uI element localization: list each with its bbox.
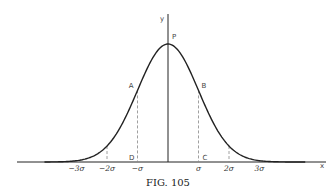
tick-label: −3σ — [68, 164, 85, 173]
point-label-c: C — [203, 154, 208, 162]
normal-curve-figure: −3σ−2σ−σσ2σ3σ PABDC x y — [0, 0, 336, 196]
x-axis-label: x — [320, 162, 324, 170]
tick-label: −σ — [132, 164, 144, 173]
point-label-b: B — [202, 82, 207, 90]
tick-label: 2σ — [223, 164, 235, 173]
point-label-p: P — [172, 33, 176, 41]
tick-label: σ — [196, 164, 202, 173]
normal-curve — [44, 44, 305, 162]
point-label-d: D — [129, 154, 134, 162]
tick-label: −2σ — [99, 164, 116, 173]
figure-caption: FIG. 105 — [0, 177, 336, 188]
y-axis-label: y — [160, 15, 164, 23]
tick-label: 3σ — [255, 164, 266, 173]
point-label-a: A — [129, 82, 134, 90]
